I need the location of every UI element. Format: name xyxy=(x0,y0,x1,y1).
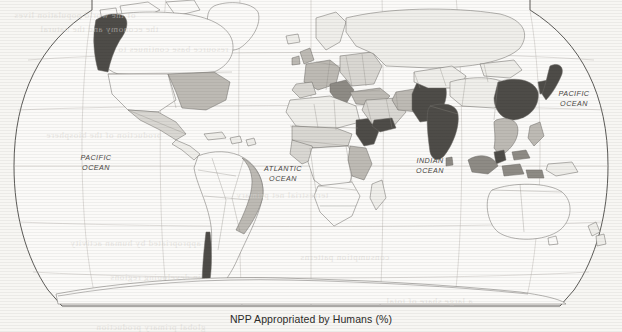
ocean-label-pacific-east-line1: PACIFIC xyxy=(559,89,590,98)
ocean-label-pacific-east-line2: OCEAN xyxy=(560,99,588,108)
ocean-label-atlantic-line2: OCEAN xyxy=(269,174,297,183)
region-iceland xyxy=(286,34,300,44)
ocean-label-atlantic-line1: ATLANTIC xyxy=(263,164,302,173)
ocean-label-pacific-west-line2: OCEAN xyxy=(82,163,110,172)
region-sri-lanka xyxy=(446,157,453,166)
region-australia xyxy=(487,184,570,239)
ocean-label-indian-line2: OCEAN xyxy=(416,166,444,175)
figure-caption: NPP Appropriated by Humans (%) xyxy=(0,313,622,325)
ocean-label-pacific-west-line1: PACIFIC xyxy=(81,153,112,162)
world-map-figure: PACIFIC OCEAN ATLANTIC OCEAN INDIAN OCEA… xyxy=(0,0,622,332)
ocean-label-indian-line1: INDIAN xyxy=(416,156,443,165)
world-map-svg: PACIFIC OCEAN ATLANTIC OCEAN INDIAN OCEA… xyxy=(0,0,622,332)
